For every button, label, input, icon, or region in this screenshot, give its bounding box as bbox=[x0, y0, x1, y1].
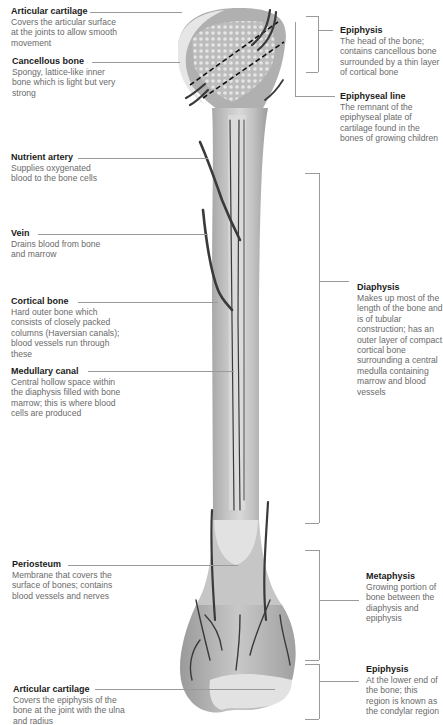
bracket-metaphysis-top bbox=[305, 550, 319, 551]
bracket-diaphysis-tick bbox=[319, 281, 349, 282]
bracket-metaphysis-tick bbox=[319, 600, 359, 601]
label-title: Epiphysis bbox=[366, 664, 443, 675]
label-title: Cortical bone bbox=[11, 296, 121, 307]
bracket-epiphysis-lower-vert bbox=[319, 664, 320, 719]
label-title: Articular cartilage bbox=[13, 684, 128, 695]
label-title: Vein bbox=[11, 228, 101, 239]
label-desc: Covers the articular surface at the join… bbox=[11, 17, 121, 48]
label-periosteum: Periosteum Membrane that covers the surf… bbox=[12, 559, 120, 601]
label-desc: The head of the bone; contains cancellou… bbox=[340, 36, 443, 78]
label-desc: The remnant of the epiphyseal plate of c… bbox=[340, 102, 443, 144]
label-nutrient-artery: Nutrient artery Supplies oxygenated bloo… bbox=[11, 152, 111, 184]
label-title: Cancellous bone bbox=[12, 56, 117, 67]
bracket-epiphysis-top bbox=[306, 16, 318, 17]
bracket-epiphysis-lower-top bbox=[305, 664, 319, 665]
bracket-epiphysis-tick bbox=[318, 30, 333, 31]
label-diaphysis: Diaphysis Makes up most of the length of… bbox=[357, 282, 443, 397]
label-desc: Drains blood from bone and marrow bbox=[11, 239, 101, 260]
label-desc: Supplies oxygenated blood to the bone ce… bbox=[11, 163, 111, 184]
label-desc: Spongy, lattice-like inner bone which is… bbox=[12, 67, 117, 98]
leader-epiphyseal-vert bbox=[295, 22, 296, 96]
label-title: Epiphyseal line bbox=[340, 91, 443, 102]
label-metaphysis: Metaphysis Growing portion of bone betwe… bbox=[366, 571, 443, 624]
label-medullary-canal: Medullary canal Central hollow space wit… bbox=[11, 366, 123, 419]
bracket-metaphysis-vert bbox=[319, 550, 320, 660]
bracket-epiphysis-lower-tick bbox=[319, 681, 359, 682]
label-vein: Vein Drains blood from bone and marrow bbox=[11, 228, 101, 260]
bracket-diaphysis-top bbox=[305, 173, 319, 174]
bracket-epiphysis-vert bbox=[318, 16, 319, 72]
bracket-diaphysis-vert bbox=[319, 173, 320, 523]
label-epiphysis-bottom: Epiphysis At the lower end of the bone; … bbox=[366, 664, 443, 717]
proximal-epiphysis bbox=[178, 8, 286, 110]
label-cortical-bone: Cortical bone Hard outer bone which cons… bbox=[11, 296, 121, 359]
label-desc: Covers the epiphysis of the bone at the … bbox=[13, 695, 128, 725]
label-articular-cartilage-top: Articular cartilage Covers the articular… bbox=[11, 6, 121, 48]
label-title: Periosteum bbox=[12, 559, 120, 570]
label-epiphyseal-line: Epiphyseal line The remnant of the epiph… bbox=[340, 91, 443, 144]
label-title: Epiphysis bbox=[340, 25, 443, 36]
label-desc: Growing portion of bone between the diap… bbox=[366, 582, 443, 624]
label-epiphysis-top: Epiphysis The head of the bone; contains… bbox=[340, 25, 443, 78]
bracket-diaphysis-bottom bbox=[305, 523, 319, 524]
label-desc: At the lower end of the bone; this regio… bbox=[366, 675, 443, 717]
leader-epiphyseal-line bbox=[295, 96, 335, 97]
label-cancellous-bone: Cancellous bone Spongy, lattice-like inn… bbox=[12, 56, 117, 98]
label-desc: Membrane that covers the surface of bone… bbox=[12, 570, 120, 601]
label-title: Articular cartilage bbox=[11, 6, 121, 17]
label-desc: Makes up most of the length of the bone … bbox=[357, 293, 443, 397]
label-articular-cartilage-bottom: Articular cartilage Covers the epiphysis… bbox=[13, 684, 128, 725]
label-title: Nutrient artery bbox=[11, 152, 111, 163]
label-title: Metaphysis bbox=[366, 571, 443, 582]
bracket-epiphysis-bottom bbox=[306, 72, 318, 73]
label-title: Diaphysis bbox=[357, 282, 443, 293]
bracket-metaphysis-bottom bbox=[305, 660, 319, 661]
label-desc: Central hollow space within the diaphysi… bbox=[11, 377, 123, 419]
bracket-epiphysis-lower-bottom bbox=[305, 719, 319, 720]
label-title: Medullary canal bbox=[11, 366, 123, 377]
label-desc: Hard outer bone which consists of closel… bbox=[11, 307, 121, 359]
